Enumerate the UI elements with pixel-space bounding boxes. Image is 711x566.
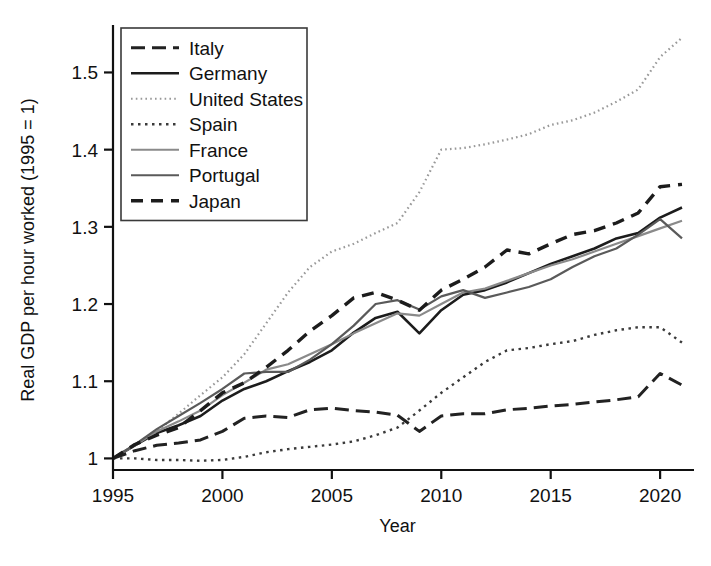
y-axis-title: Real GDP per hour worked (1995 = 1) (18, 98, 38, 401)
line-chart: 11.11.21.31.41.5199520002005201020152020… (0, 0, 711, 566)
y-tick-label-1: 1 (87, 448, 98, 469)
x-tick-label-1995: 1995 (92, 485, 134, 506)
y-tick-label-1.4: 1.4 (72, 140, 99, 161)
series-line-germany (113, 208, 682, 459)
chart-container: 11.11.21.31.41.5199520002005201020152020… (0, 0, 711, 566)
series-line-portugal (113, 219, 682, 458)
y-tick-label-1.5: 1.5 (72, 62, 98, 83)
y-tick-label-1.3: 1.3 (72, 217, 98, 238)
y-tick-label-1.1: 1.1 (72, 371, 98, 392)
chart-legend: ItalyGermanyUnited StatesSpainFrancePort… (121, 28, 307, 221)
legend-label-spain: Spain (189, 114, 238, 135)
legend-label-japan: Japan (189, 191, 241, 212)
x-tick-label-2000: 2000 (201, 485, 243, 506)
y-tick-label-1.2: 1.2 (72, 294, 98, 315)
legend-label-portugal: Portugal (189, 165, 260, 186)
x-tick-label-2020: 2020 (639, 485, 681, 506)
x-axis-title: Year (379, 516, 415, 536)
x-tick-label-2010: 2010 (420, 485, 462, 506)
legend-label-france: France (189, 140, 248, 161)
x-tick-label-2005: 2005 (311, 485, 353, 506)
legend-label-italy: Italy (189, 38, 224, 59)
x-tick-label-2015: 2015 (530, 485, 572, 506)
legend-label-united-states: United States (189, 89, 303, 110)
legend-label-germany: Germany (189, 63, 268, 84)
